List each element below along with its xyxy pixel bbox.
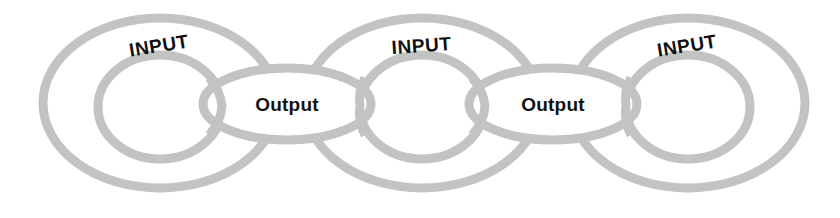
input-label-2: INPUT: [391, 33, 452, 58]
chain-arc-right-1: [359, 78, 365, 135]
output-label-1: Output: [255, 94, 319, 115]
diagram-canvas: INPUT INPUT INPUT Output Output: [0, 0, 840, 218]
output-label-2: Output: [521, 94, 585, 115]
input-output-chain-diagram: INPUT INPUT INPUT Output Output: [0, 0, 840, 218]
chain-arc-right-2: [625, 78, 631, 135]
